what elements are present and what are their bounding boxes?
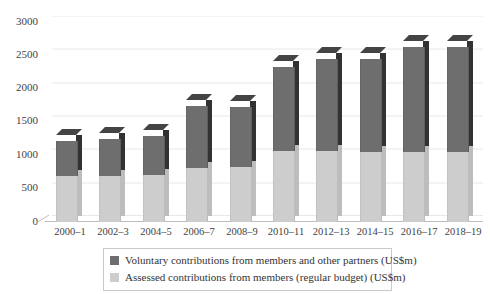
bar-2000–1 (56, 135, 82, 222)
bar-segment-voluntary (186, 106, 208, 168)
x-tick-label: 2006–7 (183, 226, 215, 238)
bar-segment-voluntary (230, 107, 252, 167)
y-tick-label: 1000 (16, 149, 38, 160)
x-tick-label: 2014–15 (357, 226, 394, 238)
legend-swatch-icon (110, 273, 119, 282)
bar-segment-assessed (316, 151, 338, 222)
bar-segment-voluntary (273, 67, 295, 151)
bar-segment-assessed (186, 168, 208, 222)
x-tick-label: 2012–13 (313, 226, 350, 238)
bar-segment-assessed (273, 151, 295, 222)
bar-segment-assessed (99, 176, 121, 222)
legend-swatch-icon (110, 256, 119, 265)
y-tick-label: 2500 (16, 49, 38, 60)
bar-segment-voluntary (403, 47, 425, 152)
bar-2016–17 (403, 41, 429, 222)
bar-segment-voluntary (143, 136, 165, 174)
bar-segment-assessed (143, 175, 165, 222)
bar-segment-assessed (447, 152, 469, 222)
x-tick-label: 2010–11 (268, 226, 304, 238)
x-tick-label: 2004–5 (140, 226, 172, 238)
x-axis: 2000–1 2002–3 2004–5 2006–7 2008–9 2010–… (45, 226, 487, 242)
legend-label: Assessed contributions from members (reg… (125, 271, 405, 284)
bar-segment-assessed (403, 152, 425, 222)
bar-2006–7 (186, 100, 212, 222)
bar-2014–15 (360, 53, 386, 222)
y-axis: 3000 2500 2000 1500 1000 500 0 (0, 0, 42, 240)
bar-2018–19 (447, 41, 473, 222)
x-tick-label: 2016–17 (401, 226, 438, 238)
bar-2002–3 (99, 133, 125, 222)
bar-2008–9 (230, 101, 256, 222)
bar-segment-assessed (360, 152, 382, 222)
legend-label: Voluntary contributions from members and… (125, 254, 417, 267)
x-tick-label: 2002–3 (97, 226, 129, 238)
bar-segment-voluntary (316, 59, 338, 151)
bar-segment-voluntary (447, 47, 469, 152)
y-tick-label: 1500 (16, 115, 38, 126)
stacked-bar-chart: 3000 2500 2000 1500 1000 500 0 2000–1 20… (0, 0, 490, 294)
legend-item-assessed: Assessed contributions from members (reg… (110, 269, 385, 286)
bar-segment-assessed (56, 176, 78, 222)
x-tick-label: 2008–9 (226, 226, 258, 238)
bar-2004–5 (143, 130, 169, 222)
x-tick-label: 2018–19 (445, 226, 482, 238)
bar-2012–13 (316, 53, 342, 222)
bar-segment-voluntary (99, 139, 121, 176)
plot-area (45, 16, 483, 222)
y-tick-label: 2000 (16, 82, 38, 93)
bar-2010–11 (273, 61, 299, 222)
y-tick-label: 3000 (16, 16, 38, 27)
x-tick-label: 2000–1 (54, 226, 86, 238)
bar-segment-voluntary (360, 59, 382, 152)
y-tick-label: 500 (22, 182, 39, 193)
legend-item-voluntary: Voluntary contributions from members and… (110, 252, 385, 269)
bar-segment-voluntary (56, 141, 78, 176)
bar-segment-assessed (230, 167, 252, 222)
chart-legend: Voluntary contributions from members and… (103, 248, 392, 291)
